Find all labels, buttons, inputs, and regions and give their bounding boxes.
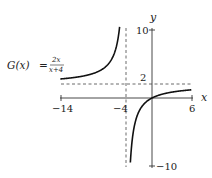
- curve-left-branch: [60, 27, 119, 79]
- function-equals: =: [39, 59, 48, 71]
- function-formula: G(x) = 2x x+4: [7, 56, 64, 74]
- y-tick-label-bottom: −10: [156, 161, 177, 172]
- function-denominator: x+4: [49, 66, 63, 74]
- x-tick-label-right: 6: [189, 103, 195, 114]
- function-numerator: 2x: [51, 56, 60, 64]
- x-tick-label-left: −14: [52, 103, 73, 114]
- function-name: G(x): [7, 59, 30, 71]
- function-graph: y x 10 2 −10 −14 −4 6 G(x) = 2x x+4: [0, 0, 212, 178]
- x-axis-label: x: [201, 91, 208, 104]
- x-tick-label-asymptote: −4: [113, 103, 128, 114]
- curve-right-branch: [130, 90, 191, 163]
- y-tick-label-top: 10: [136, 25, 149, 36]
- y-tick-label-asymptote: 2: [140, 72, 146, 83]
- y-axis-label: y: [149, 11, 157, 24]
